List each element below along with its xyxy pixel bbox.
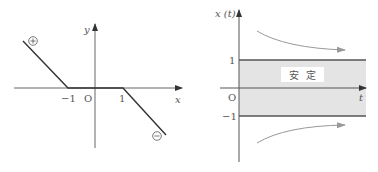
left-plot: −1 O 1 x y [14,24,182,148]
upper-trajectory-arrow [257,31,345,50]
left-origin-label: O [84,93,92,104]
right-plot: 安 定 1 O −1 t x (t) [215,8,366,162]
diagram-canvas: −1 O 1 x y 安 定 1 O −1 t x (t) [0,0,378,172]
lower-trajectory-arrow [257,125,345,143]
left-y-axis-label: y [83,24,90,35]
plus-marker-icon [29,37,38,46]
right-origin-label: O [228,92,236,103]
left-tick-pos1: 1 [119,93,125,104]
right-tick-neg1: −1 [222,111,237,122]
right-xt-axis-label: x (t) [215,8,236,19]
stable-label: 安 定 [289,69,315,81]
left-tick-neg1: −1 [61,93,76,104]
left-x-axis-label: x [175,94,181,105]
minus-marker-icon [153,132,162,141]
right-tick-pos1: 1 [229,55,235,66]
